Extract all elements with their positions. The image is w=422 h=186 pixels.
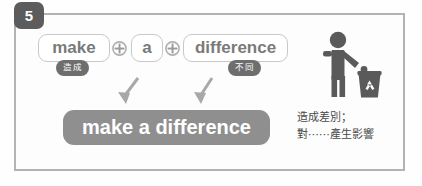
result-phrase-pill: make a difference bbox=[63, 110, 270, 145]
word-pill-make[interactable]: make bbox=[38, 34, 110, 62]
slide-canvas: 5 make a difference 造成 不同 bbox=[0, 0, 422, 186]
plus-circle-icon bbox=[165, 41, 180, 56]
gloss-badge-make: 造成 bbox=[56, 60, 89, 76]
word-pill-a[interactable]: a bbox=[131, 34, 163, 62]
plus-circle-icon bbox=[112, 41, 127, 56]
arrow-group bbox=[100, 76, 230, 108]
gloss-badge-difference: 不同 bbox=[228, 60, 261, 76]
translation-line: 對⋯⋯產生影響 bbox=[297, 126, 401, 143]
translation-line: 造成差別； bbox=[297, 109, 401, 126]
translation-text: 造成差別； 對⋯⋯產生影響 bbox=[297, 109, 401, 143]
word-pill-difference[interactable]: difference bbox=[183, 34, 288, 62]
person-recycling-icon bbox=[318, 30, 390, 98]
slide-number-badge: 5 bbox=[14, 2, 44, 29]
